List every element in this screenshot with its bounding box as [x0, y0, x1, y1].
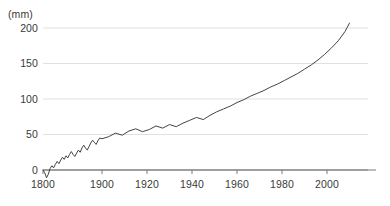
x-axis-tick-marks	[43, 170, 327, 174]
data-series-line	[43, 23, 350, 178]
x-tick-label-1920: 1920	[127, 179, 167, 190]
chart-plot-area	[0, 0, 390, 206]
x-tick-label-1900: 1900	[82, 179, 122, 190]
y-tick-label-50: 50	[8, 129, 38, 140]
x-tick-label-2000: 2000	[307, 179, 347, 190]
y-tick-label-150: 150	[8, 58, 38, 69]
y-tick-label-0: 0	[8, 165, 38, 176]
x-tick-label-1960: 1960	[217, 179, 257, 190]
x-tick-label-1940: 1940	[172, 179, 212, 190]
x-tick-label-1800: 1800	[23, 179, 63, 190]
x-tick-label-1980: 1980	[262, 179, 302, 190]
y-axis-unit-label: (mm)	[8, 9, 33, 20]
gridlines	[43, 28, 368, 170]
sea-level-line-chart: (mm) 050100150200 1800190019201940196019…	[0, 0, 390, 206]
y-tick-label-100: 100	[8, 94, 38, 105]
y-tick-label-200: 200	[8, 23, 38, 34]
